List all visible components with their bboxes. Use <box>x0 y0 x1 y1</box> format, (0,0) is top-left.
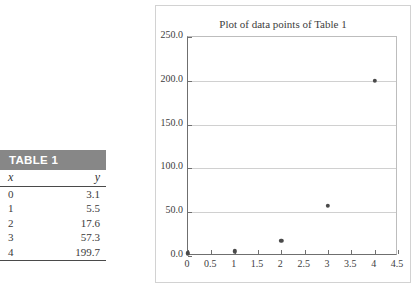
x-axis-label: 1.5 <box>251 258 264 269</box>
cell-x: 2 <box>0 216 46 231</box>
x-axis-label: 4.5 <box>391 258 404 269</box>
x-axis-tick <box>351 250 352 254</box>
x-axis-label: 1 <box>231 258 236 269</box>
data-point <box>279 238 283 242</box>
y-gridline <box>188 125 396 126</box>
x-axis-label: 2.5 <box>297 258 310 269</box>
table-1-block: TABLE 1 x y 0 3.1 1 5.5 2 17.6 3 57. <box>0 150 106 261</box>
cell-x: 1 <box>0 201 46 216</box>
table-caption-label: TABLE 1 <box>9 154 58 166</box>
table-row: 2 17.6 <box>0 216 106 231</box>
x-axis-tick <box>281 250 282 254</box>
table-header-row: x y <box>0 170 106 186</box>
x-axis-label: 4 <box>371 258 376 269</box>
column-header-y: y <box>46 170 106 186</box>
cell-y: 199.7 <box>46 245 106 261</box>
y-axis-tick <box>188 168 192 169</box>
cell-y: 3.1 <box>46 186 106 201</box>
x-axis-tick <box>258 250 259 254</box>
table-row: 0 3.1 <box>0 186 106 201</box>
column-header-x: x <box>0 170 46 186</box>
cell-y: 5.5 <box>46 201 106 216</box>
y-axis-tick <box>188 125 192 126</box>
x-axis-label: 3.5 <box>344 258 357 269</box>
table-bottom-rule <box>0 260 106 261</box>
data-point <box>372 79 376 83</box>
plot-area <box>187 36 397 255</box>
table-row: 4 199.7 <box>0 245 106 261</box>
cell-x: 4 <box>0 245 46 261</box>
y-axis-tick <box>188 212 192 213</box>
cell-x: 0 <box>0 186 46 201</box>
cell-y: 17.6 <box>46 216 106 231</box>
table-row: 3 57.3 <box>0 230 106 245</box>
x-axis-label: 0 <box>185 258 190 269</box>
x-axis-tick <box>398 250 399 254</box>
data-table: x y 0 3.1 1 5.5 2 17.6 3 57.3 4 <box>0 170 106 260</box>
data-point <box>326 204 330 208</box>
y-axis-tick <box>188 81 192 82</box>
table-caption-bar: TABLE 1 <box>0 150 106 170</box>
x-axis-label: 0.5 <box>204 258 217 269</box>
y-gridline <box>188 81 396 82</box>
table-head: x y <box>0 170 106 186</box>
x-axis-label: 3 <box>325 258 330 269</box>
x-axis-tick <box>328 250 329 254</box>
x-axis-label: 2 <box>278 258 283 269</box>
chart-title: Plot of data points of Table 1 <box>156 18 410 30</box>
table-row: 1 5.5 <box>0 201 106 216</box>
y-gridline <box>188 212 396 213</box>
y-gridline <box>188 168 396 169</box>
data-point <box>232 249 236 253</box>
x-axis-tick <box>305 250 306 254</box>
x-axis-tick <box>375 250 376 254</box>
data-point <box>186 251 190 255</box>
cell-y: 57.3 <box>46 230 106 245</box>
cell-x: 3 <box>0 230 46 245</box>
y-axis-tick <box>188 256 192 257</box>
x-axis-tick <box>211 250 212 254</box>
table-body: 0 3.1 1 5.5 2 17.6 3 57.3 4 199.7 <box>0 186 106 260</box>
y-axis-tick <box>188 37 192 38</box>
